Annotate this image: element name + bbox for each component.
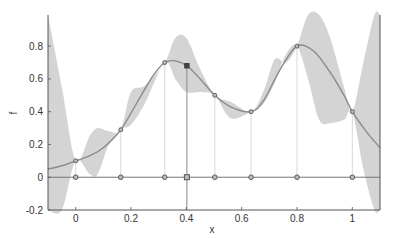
x-tick-label: 0.8 — [290, 213, 304, 224]
y-axis-ticks: -0.200.20.40.60.8 — [26, 41, 51, 216]
sample-marker — [350, 175, 355, 180]
sample-marker — [295, 175, 300, 180]
observation-point — [350, 110, 354, 114]
sample-marker — [118, 175, 123, 180]
confidence-band — [48, 11, 380, 213]
observation-point — [295, 44, 299, 48]
sample-marker-square — [184, 175, 189, 180]
y-tick-label: 0 — [37, 172, 43, 183]
observation-point — [163, 61, 167, 65]
x-tick-label: 0.6 — [235, 213, 249, 224]
band-area — [48, 11, 380, 213]
x-tick-label: 0.4 — [179, 213, 193, 224]
observation-point — [213, 93, 217, 97]
y-tick-label: 0.8 — [29, 41, 43, 52]
x-tick-label: 1 — [350, 213, 356, 224]
sample-marker — [162, 175, 167, 180]
observation-point — [249, 110, 253, 114]
x-tick-label: 0 — [73, 213, 79, 224]
y-tick-label: 0.2 — [29, 139, 43, 150]
y-tick-label: 0.4 — [29, 106, 43, 117]
sample-marker — [249, 175, 254, 180]
y-axis-label: f — [8, 111, 19, 114]
y-tick-label: -0.2 — [26, 205, 44, 216]
query-point-square — [185, 64, 189, 68]
observation-point — [119, 128, 123, 132]
sample-marker — [73, 175, 78, 180]
x-tick-label: 0.2 — [124, 213, 138, 224]
sample-marker — [213, 175, 218, 180]
observation-point — [74, 159, 78, 163]
x-axis-label: x — [210, 224, 215, 235]
y-tick-label: 0.6 — [29, 73, 43, 84]
gp-chart: 00.20.40.60.81 -0.200.20.40.60.8 x f — [0, 0, 400, 238]
